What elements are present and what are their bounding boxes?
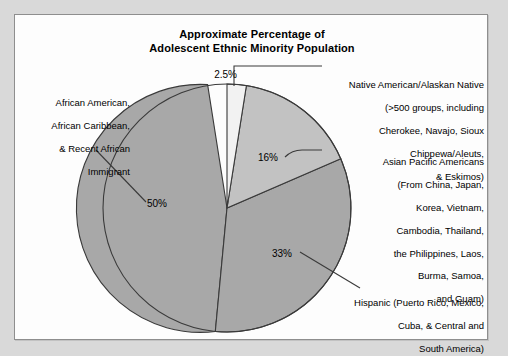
callout-native-line-2: (>500 groups, including xyxy=(326,102,484,113)
callout-asian-line-1: Asian Pacific Americans xyxy=(326,156,484,167)
page-root: Approximate Percentage of Adolescent Eth… xyxy=(0,0,508,356)
callout-asian-line-3: Korea, Vietnam, xyxy=(326,202,484,213)
pie-value-label-hispanic: 33% xyxy=(272,248,302,259)
callout-hispanic-line-2: Cuba, & Central and xyxy=(326,320,484,331)
callout-hispanic: Hispanic (Puerto Rico, Mexico, Cuba, & C… xyxy=(326,286,484,356)
callout-hispanic-line-3: South America) xyxy=(326,343,484,354)
title-line-2: Adolescent Ethnic Minority Population xyxy=(15,41,489,55)
callout-african-line-3: & Recent African xyxy=(6,143,130,154)
callout-asian-line-2: (From China, Japan, xyxy=(326,179,484,190)
pie-value-label-asian: 16% xyxy=(258,152,288,163)
pie-value-label-native: 2.5% xyxy=(203,69,237,80)
callout-asian-line-6: Burma, Samoa, xyxy=(326,270,484,281)
callout-native-line-1: Native American/Alaskan Native xyxy=(326,79,484,90)
page-title: Approximate Percentage of Adolescent Eth… xyxy=(15,27,489,55)
callout-asian-line-5: the Philippines, Laos, xyxy=(326,248,484,259)
callout-african-line-4: Immigrant xyxy=(6,166,130,177)
pie-value-label-african: 50% xyxy=(147,198,179,209)
callout-african-line-1: African American, xyxy=(6,97,130,108)
title-line-1: Approximate Percentage of xyxy=(15,27,489,41)
callout-asian-line-4: Cambodia, Thailand, xyxy=(326,225,484,236)
callout-native-line-3: Cherokee, Navajo, Sioux xyxy=(326,125,484,136)
callout-african-line-2: African Caribbean, xyxy=(6,120,130,131)
callout-hispanic-line-1: Hispanic (Puerto Rico, Mexico, xyxy=(326,297,484,308)
callout-african-american: African American, African Caribbean, & R… xyxy=(6,86,130,189)
